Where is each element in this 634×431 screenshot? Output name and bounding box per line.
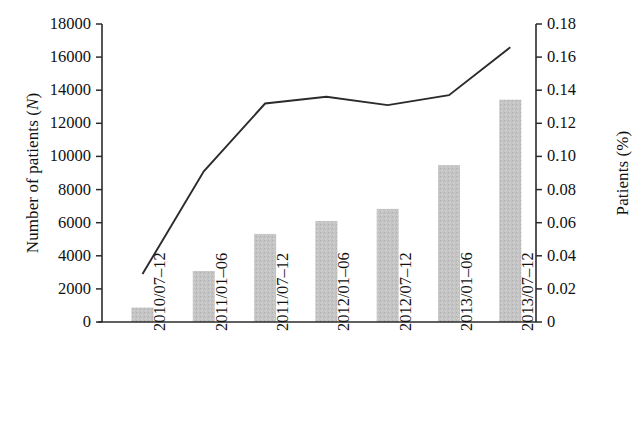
y-axis-left-tick-label: 14000: [50, 81, 91, 99]
y-axis-right-title-text: Patients (%): [613, 131, 632, 216]
y-axis-right-tick-label: 0.18: [547, 15, 576, 33]
x-axis-tick-label: 2013/07–12: [518, 252, 538, 331]
y-axis-left-tick-label: 2000: [58, 280, 91, 298]
y-axis-right-tick-label: 0.14: [547, 81, 576, 99]
y-axis-left-tick-label: 6000: [58, 214, 91, 232]
x-axis-tick-label: 2010/07–12: [150, 252, 170, 331]
y-axis-right-tick-label: 0.02: [547, 280, 576, 298]
x-axis-tick-label: 2012/01–06: [334, 252, 354, 331]
y-axis-right-tick-label: 0.12: [547, 114, 576, 132]
y-axis-left-tick-label: 16000: [50, 48, 91, 66]
y-axis-left-tick-label: 4000: [58, 247, 91, 265]
x-axis-tick-label: 2012/07–12: [396, 252, 416, 331]
y-axis-right-tick-label: 0.06: [547, 214, 576, 232]
y-axis-right-tick-label: 0.08: [547, 181, 576, 199]
x-axis-tick-label: 2013/01–06: [457, 252, 477, 331]
y-axis-right-tick-label: 0.10: [547, 147, 576, 165]
y-axis-left-tick-label: 10000: [50, 147, 91, 165]
y-axis-right-tick-label: 0.04: [547, 247, 576, 265]
y-axis-left-tick-label: 8000: [58, 181, 91, 199]
y-axis-left-tick-label: 12000: [50, 114, 91, 132]
x-axis-tick-label: 2011/07–12: [273, 253, 293, 331]
y-axis-left-tick-label: 18000: [50, 15, 91, 33]
y-axis-right-tick-label: 0.16: [547, 48, 576, 66]
y-axis-left-tick-label: 0: [83, 313, 91, 331]
y-axis-right-title: Patients (%): [612, 24, 634, 322]
x-axis-tick-label: 2011/01–06: [212, 253, 232, 331]
y-axis-right-tick-label: 0: [547, 313, 555, 331]
y-axis-left-ticks: [96, 24, 102, 322]
